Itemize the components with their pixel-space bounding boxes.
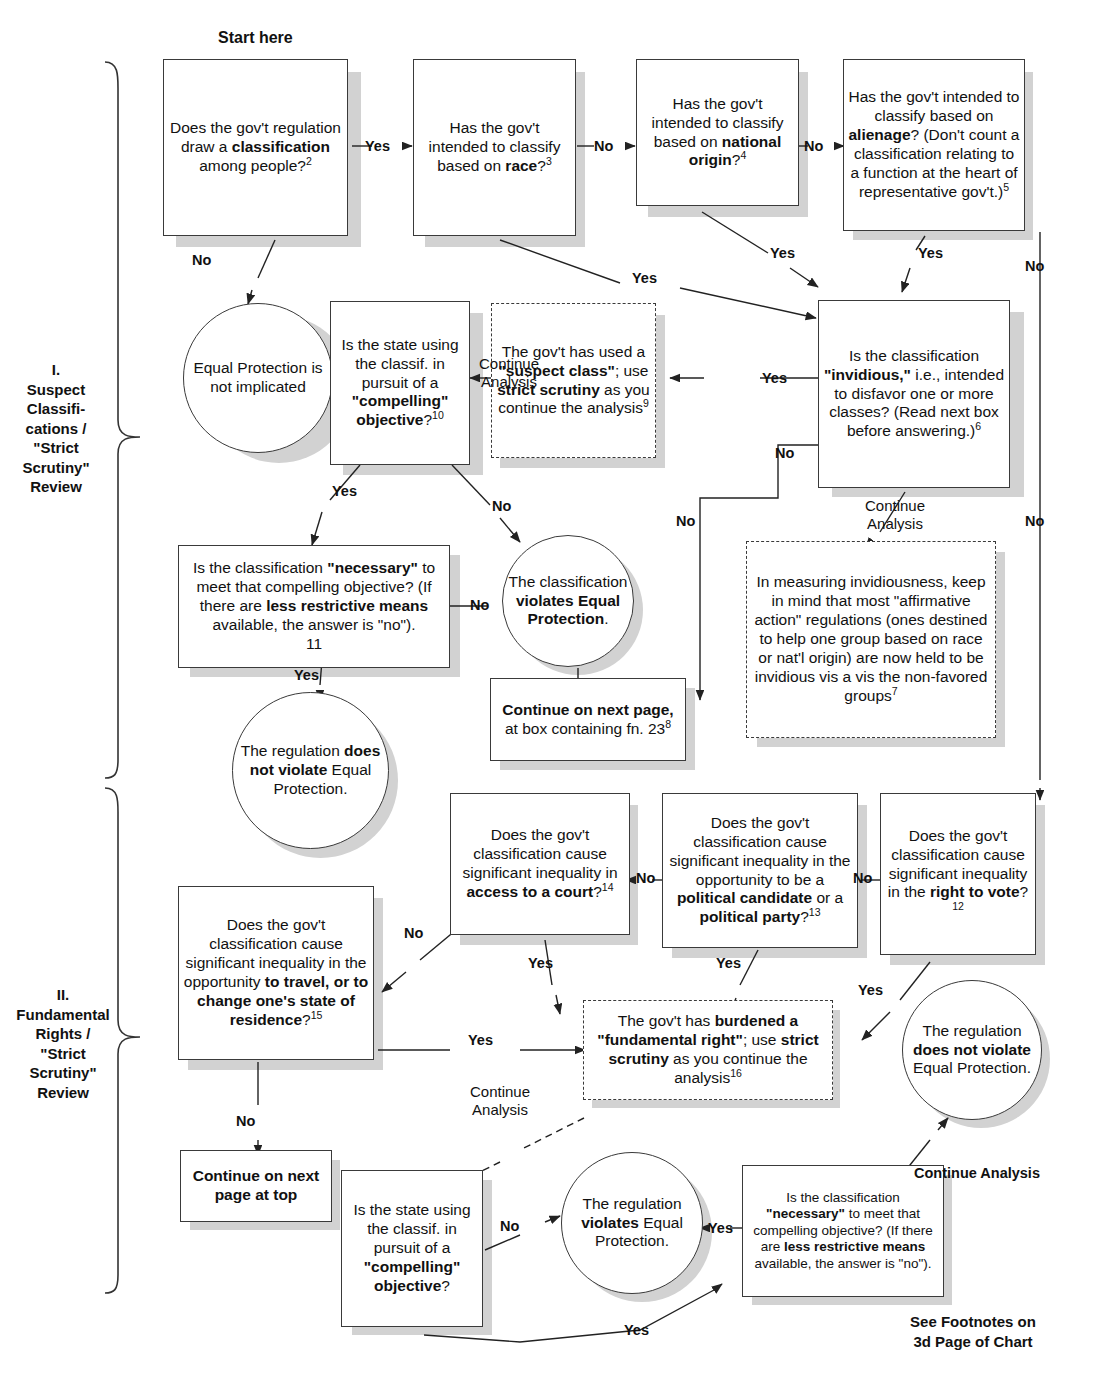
- edge-label-no: No: [853, 870, 872, 886]
- edge-label-yes: Yes: [528, 955, 553, 971]
- edge-label-yes: Yes: [624, 1322, 649, 1338]
- node-invidious[interactable]: Is the classification "invidious," i.e.,…: [818, 300, 1010, 488]
- node-national-origin[interactable]: Has the gov't intended to classify based…: [636, 59, 799, 206]
- edge-label-no: No: [775, 445, 794, 461]
- section-label-1: I.SuspectClassifi-cations /"StrictScruti…: [8, 360, 104, 497]
- footnote-reference: See Footnotes on 3d Page of Chart: [878, 1312, 1068, 1351]
- edge-label-yes: Yes: [716, 955, 741, 971]
- edge-label-no: No: [594, 138, 613, 154]
- footnote-line-1: See Footnotes on: [910, 1313, 1036, 1330]
- node-text: Has the gov't intended to classify based…: [844, 86, 1024, 203]
- node-right-to-vote[interactable]: Does the gov't classification cause sign…: [880, 793, 1036, 955]
- edge-label-yes: Yes: [468, 1032, 493, 1048]
- node-alienage[interactable]: Has the gov't intended to classify based…: [843, 59, 1025, 231]
- edge-label-yes: Yes: [858, 982, 883, 998]
- section-label-2: II.FundamentalRights /"StrictScrutiny"Re…: [8, 985, 118, 1102]
- edge-label-yes: Yes: [294, 667, 319, 683]
- edge-label-yes: Yes: [762, 370, 787, 386]
- node-political-candidate-party[interactable]: Does the gov't classification cause sign…: [662, 793, 858, 948]
- edge-label-no: No: [404, 925, 423, 941]
- edge-label-yes: Yes: [632, 270, 657, 286]
- section-label-line: I.: [52, 361, 60, 378]
- node-violates-protection[interactable]: The classification violates Equal Protec…: [502, 535, 634, 667]
- section-label-line: Scrutiny": [22, 459, 89, 476]
- edge-label-no: No: [236, 1113, 255, 1129]
- node-not-implicated[interactable]: Equal Protection is not implicated: [183, 303, 333, 453]
- node-race[interactable]: Has the gov't intended to classify based…: [413, 59, 576, 236]
- node-text: Does the gov't regulation draw a classif…: [164, 117, 347, 178]
- edge-label-continue-analysis: ContinueAnalysis: [855, 497, 935, 533]
- node-text: The regulation does not violate Equal Pr…: [233, 740, 388, 801]
- section-label-line: "Strict: [33, 439, 78, 456]
- node-text: Is the state using the classif. in pursu…: [331, 334, 469, 433]
- node-text: The regulation violates Equal Protection…: [562, 1193, 702, 1254]
- edge-label-continue-analysis: ContinueAnalysis: [458, 1083, 542, 1119]
- node-text: Is the classification "invidious," i.e.,…: [819, 345, 1009, 444]
- node-travel-residence[interactable]: Does the gov't classification cause sign…: [178, 886, 374, 1060]
- node-text: Is the classification "necessary" to mee…: [743, 1188, 943, 1274]
- node-violates-protection-2[interactable]: The regulation violates Equal Protection…: [561, 1152, 703, 1294]
- node-text: In measuring invidiousness, keep in mind…: [747, 571, 995, 707]
- node-text: Is the classification "necessary" to mee…: [179, 557, 449, 656]
- node-necessary[interactable]: Is the classification "necessary" to mee…: [178, 545, 450, 668]
- node-no-violation-top[interactable]: The regulation does not violate Equal Pr…: [232, 692, 389, 849]
- edge-label-no: No: [470, 597, 489, 613]
- node-text: The classification violates Equal Protec…: [503, 571, 633, 632]
- edge-label-yes: Yes: [332, 483, 357, 499]
- node-text: Equal Protection is not implicated: [184, 357, 332, 399]
- edge-label-yes: Continue Analysis: [914, 1165, 1040, 1181]
- node-access-to-court[interactable]: Does the gov't classification cause sign…: [450, 793, 630, 935]
- node-text: Does the gov't classification cause sign…: [451, 824, 629, 904]
- node-text: Does the gov't classification cause sign…: [663, 812, 857, 929]
- node-text: The regulation does not violate Equal Pr…: [903, 1020, 1041, 1081]
- node-continue-next-page-top[interactable]: Continue on next page at top: [180, 1150, 332, 1222]
- flowchart-canvas: Does the gov't regulation draw a classif…: [0, 0, 1099, 1377]
- node-text: Has the gov't intended to classify based…: [414, 117, 575, 178]
- section-label-line: Classifi-: [27, 400, 85, 417]
- node-classification[interactable]: Does the gov't regulation draw a classif…: [163, 59, 348, 236]
- node-compelling-objective[interactable]: Is the state using the classif. in pursu…: [330, 301, 470, 465]
- edge-label-no: No: [636, 870, 655, 886]
- section-label-line: "Strict: [40, 1045, 85, 1062]
- edge-label-no: No: [1025, 258, 1044, 274]
- node-text: The gov't has burdened a "fundamental ri…: [584, 1010, 832, 1090]
- edge-label-yes: Yes: [918, 245, 943, 261]
- edge-label-no: No: [492, 498, 511, 514]
- section-label-line: II.: [57, 986, 70, 1003]
- edge-label-no: No: [192, 252, 211, 268]
- section-label-line: Suspect: [27, 381, 85, 398]
- section-label-line: Rights /: [36, 1025, 91, 1042]
- edge-label-yes: Yes: [770, 245, 795, 261]
- edge-label-yes: Yes: [365, 138, 390, 154]
- section-label-line: Review: [37, 1084, 89, 1101]
- node-text: Has the gov't intended to classify based…: [637, 93, 798, 173]
- edge-label-no: No: [676, 513, 695, 529]
- footnote-line-2: 3d Page of Chart: [913, 1333, 1032, 1350]
- section-label-line: cations /: [26, 420, 87, 437]
- edge-label-no: No: [804, 138, 823, 154]
- section-label-line: Scrutiny": [29, 1064, 96, 1081]
- node-text: Continue on next page at top: [181, 1165, 331, 1207]
- node-affirmative-action-note[interactable]: In measuring invidiousness, keep in mind…: [746, 541, 996, 738]
- edge-label-continue-analysis: ContinueAnalysis: [474, 355, 544, 391]
- edge-label-no: No: [500, 1218, 519, 1234]
- node-compelling-objective-2[interactable]: Is the state using the classif. in pursu…: [341, 1170, 483, 1327]
- node-text: Is the state using the classif. in pursu…: [342, 1199, 482, 1298]
- node-necessary-2[interactable]: Is the classification "necessary" to mee…: [742, 1165, 944, 1297]
- node-text: Does the gov't classification cause sign…: [179, 914, 373, 1031]
- edge-label-no: Yes: [708, 1220, 733, 1236]
- section-label-line: Review: [30, 478, 82, 495]
- start-here-label: Start here: [218, 29, 293, 47]
- node-fundamental-right[interactable]: The gov't has burdened a "fundamental ri…: [583, 1000, 833, 1100]
- node-continue-next-page-fn23[interactable]: Continue on next page, at box containing…: [490, 678, 686, 761]
- section-label-line: Fundamental: [16, 1006, 109, 1023]
- edge-label-no: No: [1025, 513, 1044, 529]
- node-text: Continue on next page, at box containing…: [491, 699, 685, 741]
- node-no-violation-bottom[interactable]: The regulation does not violate Equal Pr…: [902, 980, 1042, 1120]
- node-text: Does the gov't classification cause sign…: [881, 825, 1035, 924]
